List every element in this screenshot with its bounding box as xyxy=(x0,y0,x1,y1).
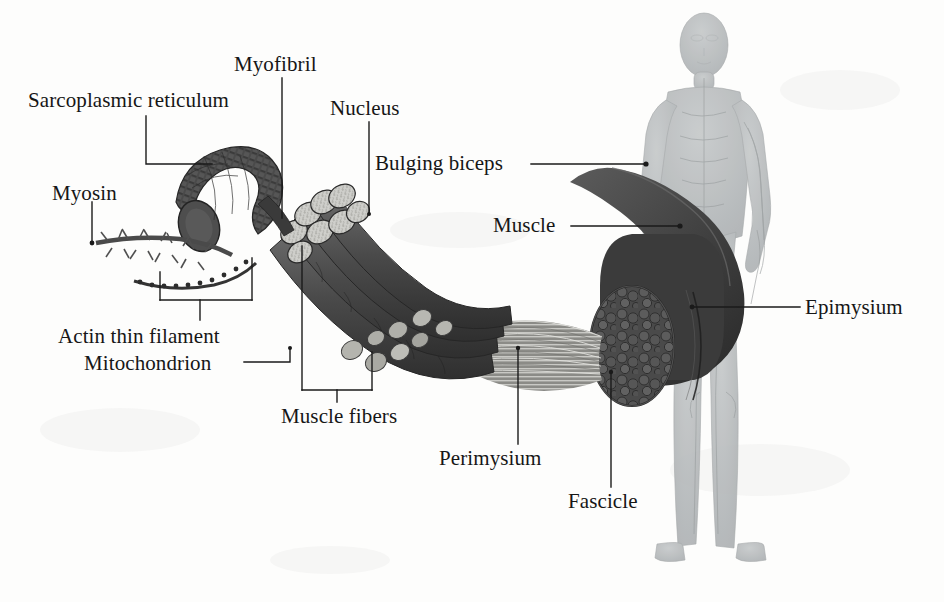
actin-filament xyxy=(134,260,256,289)
label-muscle: Muscle xyxy=(493,215,555,236)
label-actin-thin-filament: Actin thin filament xyxy=(58,326,220,347)
label-nucleus: Nucleus xyxy=(330,98,400,119)
label-perimysium: Perimysium xyxy=(439,448,542,469)
leader-sarcoplasmic-reticulum xyxy=(146,116,212,164)
label-myofibril: Myofibril xyxy=(234,54,317,75)
label-bulging-biceps: Bulging biceps xyxy=(375,153,503,174)
label-mitochondrion: Mitochondrion xyxy=(84,353,211,374)
label-myosin: Myosin xyxy=(52,183,117,204)
label-muscle-fibers: Muscle fibers xyxy=(281,406,397,427)
muscle-fiber-bundle xyxy=(270,179,512,379)
muscle-cross-section xyxy=(590,234,724,406)
muscle-structure-diagram: Sarcoplasmic reticulum Myofibril Nucleus… xyxy=(0,0,944,602)
label-epimysium: Epimysium xyxy=(805,297,903,318)
label-sarcoplasmic-reticulum: Sarcoplasmic reticulum xyxy=(28,90,229,111)
leader-mitochondrion xyxy=(244,348,290,362)
label-fascicle: Fascicle xyxy=(568,491,638,512)
